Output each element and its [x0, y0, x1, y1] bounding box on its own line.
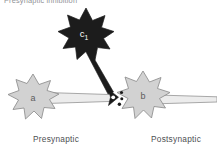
- vesicle-dot: [118, 103, 121, 106]
- vesicle-dot: [120, 97, 123, 100]
- vesicle-dot: [120, 91, 123, 94]
- inhibitory-axon-shaft: [85, 50, 114, 94]
- postsynaptic-axon: [157, 95, 217, 104]
- label-presynaptic: Presynaptic: [33, 134, 79, 144]
- label-postsynaptic: Postsynaptic: [151, 134, 201, 144]
- inhibitory-neuron-label-subscript: 1: [84, 34, 88, 41]
- inhibitory-axon: [85, 50, 114, 94]
- terminal-lumen: [111, 95, 115, 99]
- presynaptic-neuron-label: a: [30, 93, 35, 103]
- postsynaptic-axon-tube: [157, 95, 217, 104]
- presynaptic-neuron-a: a: [8, 74, 59, 119]
- postsynaptic-neuron-label: b: [140, 91, 145, 101]
- postsynaptic-neuron-b: b: [117, 71, 170, 119]
- presynaptic-inhibition-figure: Presynaptic inhibition c1 a b: [0, 0, 217, 159]
